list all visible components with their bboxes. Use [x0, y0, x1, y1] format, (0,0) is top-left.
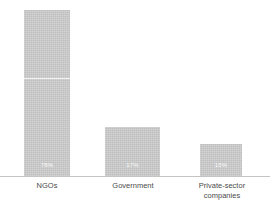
bar-ngos	[24, 10, 70, 176]
category-label-government: Government	[92, 181, 174, 191]
bar-government-value-label: 17%	[105, 162, 160, 168]
bar-government	[105, 127, 160, 176]
category-label-ngos: NGOs	[7, 181, 87, 191]
bar-private-sector-companies	[200, 144, 242, 176]
bar-ngos-value-label: 78%	[24, 162, 70, 168]
bar-chart-plot-area: 78% 17% 15% NGOs Government Private-sect…	[0, 0, 270, 209]
category-label-private-sector-companies: Private-sector companies	[181, 181, 263, 201]
bar-ngos-separator-line	[24, 78, 70, 79]
x-axis-baseline	[0, 176, 270, 177]
bar-private-sector-companies-value-label: 15%	[200, 162, 242, 168]
